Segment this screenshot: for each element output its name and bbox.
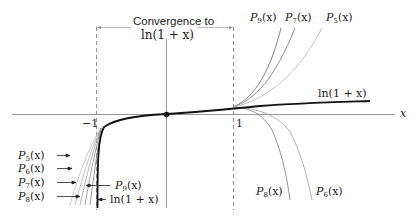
label-P7-top: P7(x)	[285, 12, 312, 25]
label-P7-left: P7(x)	[18, 177, 45, 190]
label-P5-top: P5(x)	[326, 12, 353, 25]
title-line-2: ln(1 + x)	[141, 29, 194, 41]
title-line-1: Convergence to	[133, 16, 214, 28]
arrowhead-left-icon	[97, 26, 101, 29]
taylor-convergence-diagram	[0, 0, 414, 220]
label-ln-right: ln(1 + x)	[318, 88, 367, 99]
label-P8-bottom: P8(x)	[256, 186, 283, 199]
tick-label-pos1: 1	[236, 118, 243, 129]
label-P9-lower: P9(x)	[115, 180, 142, 193]
label-P6-left: P6(x)	[18, 163, 45, 176]
label-P9-top: P9(x)	[250, 12, 277, 25]
left-arrows	[57, 154, 110, 201]
arrowhead-right-icon	[229, 26, 233, 29]
label-P8-left: P8(x)	[18, 191, 45, 204]
tick-label-neg1: −1	[82, 118, 98, 129]
origin-point	[164, 112, 170, 118]
label-P6-bottom: P6(x)	[316, 186, 343, 199]
label-ln-lower: ln(1 + x)	[110, 194, 159, 205]
x-axis-label: x	[400, 108, 406, 119]
curve-P9-right	[233, 28, 281, 107]
